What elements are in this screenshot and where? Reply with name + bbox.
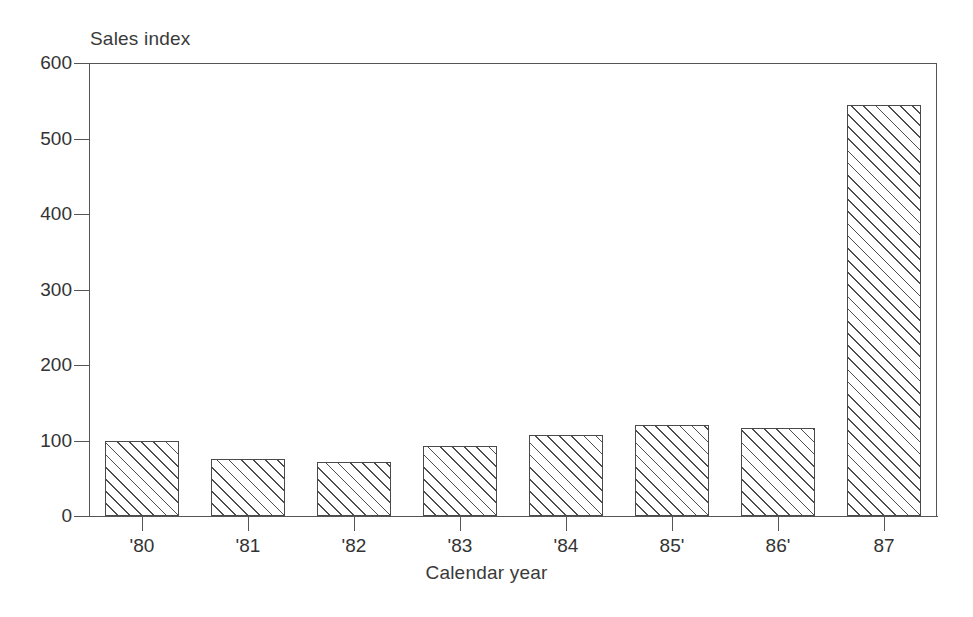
y-axis-tick-label: 600	[6, 52, 72, 74]
x-axis-tick-label: '83	[448, 535, 473, 557]
y-axis-tick	[74, 441, 89, 442]
y-axis-title: Sales index	[90, 28, 190, 50]
bar	[317, 462, 391, 516]
x-axis-tick	[460, 517, 461, 531]
y-axis-tick-label: 500	[6, 128, 72, 150]
y-axis-tick	[74, 365, 89, 366]
x-axis-tick	[778, 517, 779, 531]
x-axis-line	[89, 516, 938, 517]
x-axis-tick	[248, 517, 249, 531]
y-axis-line	[89, 63, 90, 517]
x-axis-tick-label: 85'	[660, 535, 685, 557]
y-axis-tick	[74, 63, 89, 64]
bar-chart: Sales index 0100200300400500600 '80'81'8…	[0, 0, 973, 617]
x-axis-tick-label: '80	[130, 535, 155, 557]
bar	[529, 435, 603, 516]
y-axis-tick-label: 200	[6, 354, 72, 376]
bar	[211, 459, 285, 516]
bar	[847, 105, 921, 516]
x-axis-tick-label: 86'	[766, 535, 791, 557]
x-axis-tick	[354, 517, 355, 531]
x-axis-tick-label: '82	[342, 535, 367, 557]
x-axis-tick-label: '84	[554, 535, 579, 557]
y-axis-tick	[74, 516, 89, 517]
y-axis-tick-label: 400	[6, 203, 72, 225]
y-axis-tick	[74, 139, 89, 140]
y-axis-tick-label: 0	[6, 505, 72, 527]
y-axis-tick-label: 100	[6, 430, 72, 452]
y-axis-tick	[74, 290, 89, 291]
bar	[741, 428, 815, 516]
x-axis-tick	[884, 517, 885, 531]
x-axis-tick-label: '81	[236, 535, 261, 557]
x-axis-tick	[142, 517, 143, 531]
bar	[105, 441, 179, 517]
y-axis-tick	[74, 214, 89, 215]
x-axis-tick	[672, 517, 673, 531]
x-axis-title: Calendar year	[0, 562, 973, 584]
bar	[423, 446, 497, 516]
y-axis-tick-label: 300	[6, 279, 72, 301]
x-axis-tick-label: 87	[873, 535, 894, 557]
x-axis-tick	[566, 517, 567, 531]
bar	[635, 425, 709, 516]
